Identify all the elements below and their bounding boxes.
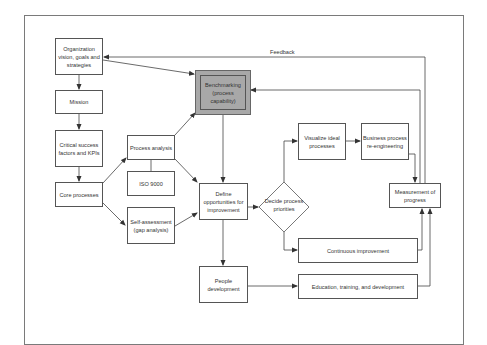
node-education-training: Education, training, and development (298, 274, 418, 299)
node-measurement: Measurement of progress (389, 183, 441, 208)
feedback-label: Feedback (270, 49, 295, 55)
node-benchmarking: Benchmarking (process capability) (195, 70, 251, 115)
benchmarking-label: Benchmarking (process capability) (200, 75, 246, 110)
node-core-processes: Core processes (55, 182, 103, 207)
node-visualize: Visualize ideal processes (298, 123, 346, 160)
node-org-vision: Organization vision, goals and strategie… (55, 38, 103, 75)
node-people-development: People development (199, 266, 248, 303)
node-business-process-reengineering: Business process re-engineering (361, 123, 409, 160)
node-define-opportunities: Define opportunities for improvement (199, 183, 248, 220)
node-decide-priorities: Decide process priorities (264, 197, 304, 213)
node-mission: Mission (55, 90, 103, 114)
node-self-assessment: Self-assessment (gap analysis) (127, 207, 175, 244)
node-process-analysis: Process analysis (127, 135, 175, 160)
node-critical-success-factors: Critical success factors and KPIs (55, 130, 103, 167)
node-continuous-improvement: Continuous improvement (298, 238, 418, 263)
node-iso-9000: ISO 9000 (127, 171, 175, 196)
